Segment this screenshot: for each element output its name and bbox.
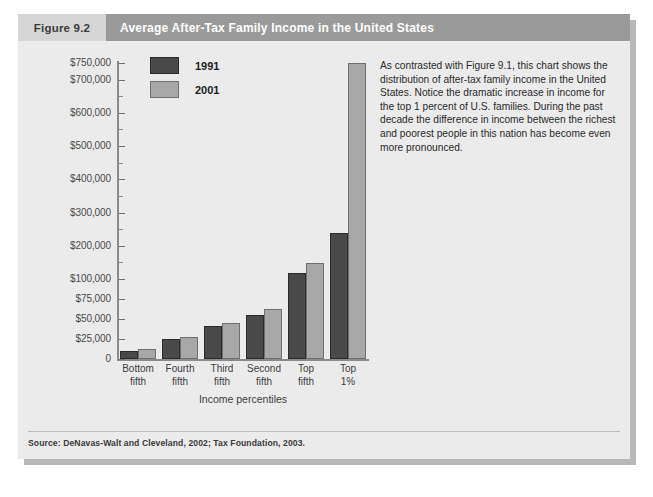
bar-2001-third-fifth: [222, 323, 240, 359]
legend-swatch-2001-icon: [150, 81, 179, 98]
figure-panel: Figure 9.2 Average After-Tax Family Inco…: [18, 14, 630, 459]
chart-legend: 1991 2001: [150, 57, 260, 105]
y-axis-tick-label: $50,000: [76, 313, 111, 324]
x-axis-label-line: 1%: [320, 376, 376, 389]
y-axis-tick-label: $100,000: [70, 273, 111, 284]
figure-caption: As contrasted with Figure 9.1, this char…: [380, 59, 616, 154]
figure-header: Figure 9.2 Average After-Tax Family Inco…: [18, 14, 630, 41]
x-axis-label-line: Top: [320, 363, 376, 376]
legend-swatch-1991-icon: [150, 57, 179, 74]
y-axis-tick-label: $600,000: [70, 107, 111, 118]
bar-1991-top-1-: [330, 233, 348, 359]
y-axis-tick-label: $75,000: [76, 293, 111, 304]
bar-1991-third-fifth: [204, 326, 222, 359]
figure-number-label: Figure 9.2: [34, 22, 90, 34]
source-divider: [28, 431, 620, 432]
bar-2001-second-fifth: [264, 309, 282, 359]
y-axis-tick-label: $400,000: [70, 173, 111, 184]
figure-body: 0$25,000$50,000$75,000$100,000$200,000$3…: [18, 41, 630, 459]
x-axis-title: Income percentiles: [117, 393, 369, 405]
figure-source-label: Source: DeNavas-Walt and Cleveland, 2002…: [28, 438, 305, 448]
bar-2001-top-1-: [348, 63, 366, 359]
legend-item-1991: 1991: [150, 57, 260, 74]
y-axis-tick-label: $700,000: [70, 74, 111, 85]
y-axis-tick-label: $200,000: [70, 240, 111, 251]
figure-number-box: Figure 9.2: [18, 14, 106, 41]
bar-2001-fourth-fifth: [180, 337, 198, 359]
y-axis-tick-label: $750,000: [70, 57, 111, 68]
legend-item-2001: 2001: [150, 81, 260, 98]
y-axis-tick-label: $500,000: [70, 140, 111, 151]
legend-label-1991: 1991: [195, 60, 219, 72]
bar-chart: 0$25,000$50,000$75,000$100,000$200,000$3…: [28, 49, 373, 419]
figure-caption-text: As contrasted with Figure 9.1, this char…: [380, 59, 616, 154]
bar-2001-top-fifth: [306, 263, 324, 359]
x-axis-group-label: Top1%: [320, 363, 376, 388]
y-axis-tick-label: $25,000: [76, 333, 111, 344]
bar-1991-fourth-fifth: [162, 339, 180, 359]
figure-title-label: Average After-Tax Family Income in the U…: [120, 21, 434, 35]
bar-1991-second-fifth: [246, 315, 264, 359]
bar-1991-bottom-fifth: [120, 351, 138, 359]
bar-2001-bottom-fifth: [138, 349, 156, 359]
y-axis-tick-label: $300,000: [70, 207, 111, 218]
legend-label-2001: 2001: [195, 84, 219, 96]
bar-1991-top-fifth: [288, 273, 306, 359]
figure-title-box: Average After-Tax Family Income in the U…: [106, 14, 630, 41]
